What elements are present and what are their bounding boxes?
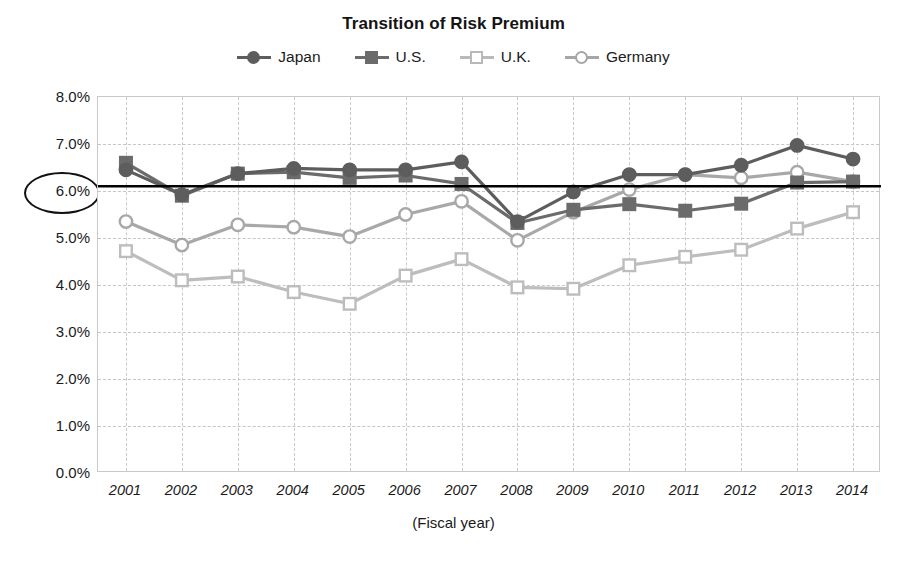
data-point-marker bbox=[735, 172, 747, 184]
data-point-marker bbox=[120, 245, 132, 257]
x-tick-label: 2014 bbox=[836, 482, 868, 498]
x-tick-label: 2007 bbox=[444, 482, 476, 498]
y-tick-label: 3.0% bbox=[20, 323, 90, 340]
series-japan[interactable] bbox=[120, 139, 859, 228]
data-point-marker bbox=[791, 139, 803, 151]
chart-legend: JapanU.S.U.K.Germany bbox=[0, 48, 907, 66]
data-point-marker bbox=[288, 221, 300, 233]
x-tick-label: 2004 bbox=[277, 482, 309, 498]
legend-label: Germany bbox=[606, 48, 670, 66]
legend-item-us[interactable]: U.S. bbox=[355, 48, 426, 66]
legend-label: U.K. bbox=[501, 48, 531, 66]
data-point-marker bbox=[343, 230, 355, 242]
data-point-marker bbox=[679, 251, 691, 263]
data-point-marker bbox=[568, 204, 580, 216]
data-point-marker bbox=[735, 198, 747, 210]
data-point-marker bbox=[456, 253, 468, 265]
chart-figure: Transition of Risk Premium JapanU.S.U.K.… bbox=[0, 0, 907, 569]
y-tick-label: 4.0% bbox=[20, 276, 90, 293]
y-axis-tick-labels: 8.0%7.0%6.0%5.0%4.0%3.0%2.0%1.0%0.0% bbox=[18, 96, 90, 472]
legend-swatch-open-square-icon bbox=[460, 50, 494, 64]
y-tick-label: 8.0% bbox=[20, 88, 90, 105]
data-point-marker bbox=[288, 162, 300, 174]
legend-item-uk[interactable]: U.K. bbox=[460, 48, 531, 66]
legend-swatch-open-circle-icon bbox=[565, 50, 599, 64]
data-point-marker bbox=[120, 164, 132, 176]
series-germany[interactable] bbox=[120, 166, 859, 251]
data-point-marker bbox=[399, 164, 411, 176]
y-tick-label: 5.0% bbox=[20, 229, 90, 246]
data-point-marker bbox=[512, 282, 524, 294]
plot-area bbox=[97, 96, 880, 472]
y-tick-label: 6.0% bbox=[20, 182, 90, 199]
data-point-marker bbox=[455, 195, 467, 207]
x-tick-label: 2002 bbox=[165, 482, 197, 498]
data-point-marker bbox=[847, 153, 859, 165]
page-title: Transition of Risk Premium bbox=[0, 14, 907, 34]
data-point-marker bbox=[679, 168, 691, 180]
data-point-marker bbox=[232, 167, 244, 179]
data-point-marker bbox=[343, 164, 355, 176]
data-point-marker bbox=[456, 178, 468, 190]
x-tick-label: 2001 bbox=[109, 482, 141, 498]
legend-item-germany[interactable]: Germany bbox=[565, 48, 670, 66]
data-point-marker bbox=[847, 206, 859, 218]
data-point-marker bbox=[624, 198, 636, 210]
data-point-marker bbox=[679, 205, 691, 217]
legend-swatch-filled-circle-icon bbox=[237, 50, 271, 64]
data-point-marker bbox=[288, 286, 300, 298]
data-point-marker bbox=[791, 223, 803, 235]
data-point-marker bbox=[232, 271, 244, 283]
x-tick-label: 2013 bbox=[780, 482, 812, 498]
data-point-marker bbox=[176, 189, 188, 201]
legend-item-japan[interactable]: Japan bbox=[237, 48, 320, 66]
legend-swatch-filled-square-icon bbox=[355, 50, 389, 64]
y-tick-label: 7.0% bbox=[20, 135, 90, 152]
data-point-marker bbox=[344, 298, 356, 310]
y-tick-label: 0.0% bbox=[20, 464, 90, 481]
legend-label: U.S. bbox=[396, 48, 426, 66]
x-tick-label: 2006 bbox=[388, 482, 420, 498]
data-point-marker bbox=[511, 234, 523, 246]
y-tick-label: 1.0% bbox=[20, 417, 90, 434]
data-point-marker bbox=[568, 283, 580, 295]
data-point-marker bbox=[735, 159, 747, 171]
data-point-marker bbox=[120, 215, 132, 227]
data-point-marker bbox=[567, 186, 579, 198]
data-point-marker bbox=[232, 219, 244, 231]
x-tick-label: 2011 bbox=[669, 482, 700, 498]
data-point-marker bbox=[511, 215, 523, 227]
data-point-marker bbox=[624, 259, 636, 271]
x-axis-title: (Fiscal year) bbox=[0, 514, 907, 531]
data-point-marker bbox=[623, 168, 635, 180]
data-point-marker bbox=[176, 275, 188, 287]
data-point-marker bbox=[400, 270, 412, 282]
legend-label: Japan bbox=[278, 48, 320, 66]
data-point-marker bbox=[399, 208, 411, 220]
data-point-marker bbox=[455, 156, 467, 168]
x-tick-label: 2008 bbox=[500, 482, 532, 498]
x-tick-label: 2010 bbox=[612, 482, 644, 498]
data-point-marker bbox=[735, 244, 747, 256]
x-tick-label: 2003 bbox=[221, 482, 253, 498]
x-tick-label: 2012 bbox=[724, 482, 756, 498]
x-tick-label: 2005 bbox=[333, 482, 365, 498]
y-tick-label: 2.0% bbox=[20, 370, 90, 387]
series-layer bbox=[98, 97, 881, 473]
x-tick-label: 2009 bbox=[556, 482, 588, 498]
x-axis-tick-labels: 2001200220032004200520062007200820092010… bbox=[97, 482, 880, 506]
data-point-marker bbox=[176, 239, 188, 251]
